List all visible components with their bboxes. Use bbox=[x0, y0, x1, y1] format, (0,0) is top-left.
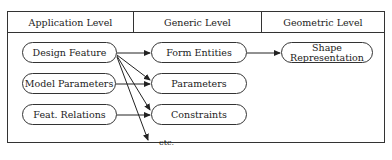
node-form-entities: Form Entities bbox=[151, 42, 247, 63]
node-model-parameters: Model Parameters bbox=[22, 73, 116, 94]
header-geometric-level: Geometric Level bbox=[262, 12, 384, 33]
node-constraints: Constraints bbox=[151, 104, 247, 125]
header-generic-level: Generic Level bbox=[134, 12, 262, 33]
header-application-level: Application Level bbox=[8, 12, 134, 33]
etc-label: etc. bbox=[159, 138, 174, 147]
node-parameters: Parameters bbox=[151, 73, 247, 94]
node-design-feature: Design Feature bbox=[22, 42, 117, 63]
node-feat-relations: Feat. Relations bbox=[22, 104, 117, 125]
node-shape-representation: Shape Representation bbox=[281, 42, 373, 63]
